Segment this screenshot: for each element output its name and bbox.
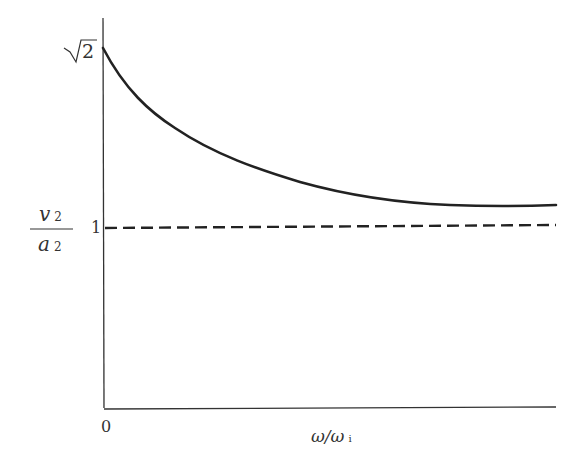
x-axis-label: ω/ωi (311, 426, 352, 446)
x-label-omega: ω/ω (311, 426, 344, 446)
y-label-v: v (39, 202, 50, 226)
y-label-denominator: a2 (38, 232, 62, 256)
tick-sqrt2: 2 (82, 40, 94, 62)
x-label-sub: i (348, 433, 351, 444)
tick-one: 1 (91, 218, 101, 237)
data-curve (103, 48, 556, 206)
chart-canvas (0, 0, 584, 472)
x-axis (104, 407, 556, 409)
asymptote-line (105, 225, 556, 228)
x-tick-zero: 0 (101, 417, 111, 436)
y-label-a-sub: 2 (54, 240, 62, 254)
y-label-numerator: v2 (39, 202, 62, 226)
y-label-a: a (38, 232, 50, 256)
y-axis (103, 18, 104, 408)
y-label-v-sub: 2 (54, 210, 62, 224)
